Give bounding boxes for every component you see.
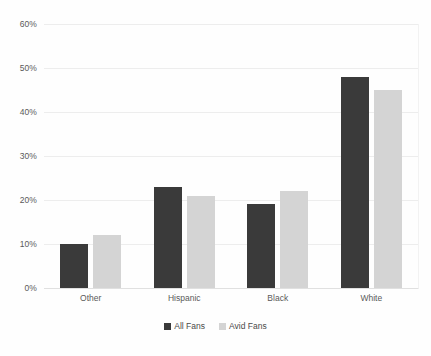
x-axis-label-hispanic: Hispanic xyxy=(138,294,232,303)
bar-avid-fans-white[interactable] xyxy=(374,90,402,288)
bar-chart: 60% 50% 40% 30% 20% 10% 0% Other Hispani… xyxy=(0,0,431,356)
bar-all-fans-white[interactable] xyxy=(341,77,369,288)
y-axis-label-50: 50% xyxy=(5,64,37,73)
bars-layer xyxy=(44,24,418,288)
bar-avid-fans-black[interactable] xyxy=(280,191,308,288)
x-axis-label-other: Other xyxy=(44,294,138,303)
legend-item-all-fans[interactable]: All Fans xyxy=(164,322,205,331)
bar-group-black xyxy=(231,24,325,288)
bar-all-fans-other[interactable] xyxy=(60,244,88,288)
bar-all-fans-hispanic[interactable] xyxy=(154,187,182,288)
bar-avid-fans-hispanic[interactable] xyxy=(187,196,215,288)
bar-avid-fans-other[interactable] xyxy=(93,235,121,288)
x-axis-label-white: White xyxy=(325,294,419,303)
legend-label-avid-fans: Avid Fans xyxy=(229,322,267,331)
bar-group-white xyxy=(325,24,419,288)
y-axis-label-0: 0% xyxy=(5,284,37,293)
y-axis-label-30: 30% xyxy=(5,152,37,161)
y-axis-label-40: 40% xyxy=(5,108,37,117)
y-axis-label-20: 20% xyxy=(5,196,37,205)
bar-all-fans-black[interactable] xyxy=(247,204,275,288)
gridline-0 xyxy=(44,288,418,289)
chart-legend: All Fans Avid Fans xyxy=(0,322,431,331)
legend-label-all-fans: All Fans xyxy=(174,322,205,331)
bar-group-hispanic xyxy=(138,24,232,288)
bar-group-other xyxy=(44,24,138,288)
y-axis-label-10: 10% xyxy=(5,240,37,249)
x-axis-label-black: Black xyxy=(231,294,325,303)
legend-swatch-icon-avid-fans xyxy=(219,323,226,330)
y-axis-label-60: 60% xyxy=(5,20,37,29)
legend-swatch-icon-all-fans xyxy=(164,323,171,330)
legend-item-avid-fans[interactable]: Avid Fans xyxy=(219,322,267,331)
